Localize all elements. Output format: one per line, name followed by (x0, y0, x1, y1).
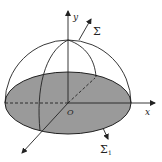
sigma-normal-arrow (79, 19, 91, 40)
sigma1-label: Σ (100, 143, 108, 156)
meridian-back (68, 40, 96, 77)
sigma1-subscript: 1 (108, 149, 112, 156)
diagram-canvas: y x O Σ Σ 1 (0, 0, 162, 162)
y-axis-label: y (72, 12, 79, 22)
sigma-label: Σ (93, 25, 101, 38)
x-axis-label: x (145, 107, 150, 117)
sigma1-normal-arrow (103, 128, 108, 139)
hemisphere-diagram: y x O Σ Σ 1 (0, 0, 162, 162)
origin-label: O (67, 108, 74, 117)
